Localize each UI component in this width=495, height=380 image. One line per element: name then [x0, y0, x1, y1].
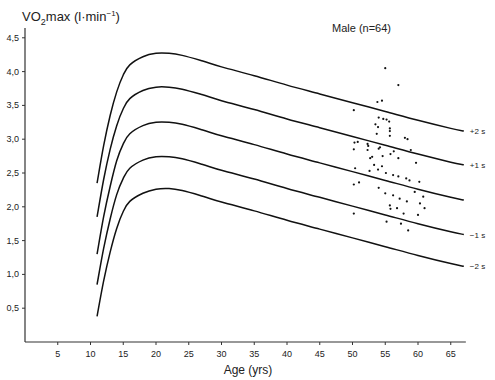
data-point [379, 146, 381, 148]
x-tick-label: 55 [380, 349, 390, 359]
y-tick-label: 3,0 [6, 134, 19, 144]
data-point [404, 137, 406, 139]
data-point [371, 156, 373, 158]
data-point [353, 141, 355, 143]
data-point [353, 148, 355, 150]
axes: 0,51,01,52,02,53,03,54,04,55101520253035… [6, 28, 465, 359]
data-point [397, 175, 399, 177]
curve-2-s [97, 188, 464, 316]
x-tick-label: 30 [216, 349, 226, 359]
percentile-curves: +2 s+1 s−1 s−2 s [97, 53, 485, 316]
chart-svg: 0,51,01,52,02,53,03,54,04,55101520253035… [0, 0, 495, 380]
data-point [378, 187, 380, 189]
x-tick-label: 40 [282, 349, 292, 359]
data-point [376, 101, 378, 103]
data-point [389, 208, 391, 210]
y-tick-label: 3,5 [6, 100, 19, 110]
data-point [388, 121, 390, 123]
data-point [392, 194, 394, 196]
data-point [382, 155, 384, 157]
curve-label: −2 s [470, 262, 485, 271]
curve-label: +1 s [470, 161, 485, 170]
x-tick-label: 60 [413, 349, 423, 359]
data-point [422, 196, 424, 198]
x-tick-label: 50 [347, 349, 357, 359]
data-point [389, 127, 391, 129]
data-point [353, 109, 355, 111]
data-point [358, 181, 360, 183]
data-point [407, 229, 409, 231]
data-point [393, 150, 395, 152]
data-point [417, 214, 419, 216]
data-point [419, 202, 421, 204]
data-point [418, 181, 420, 183]
x-tick-label: 5 [55, 349, 60, 359]
data-point [382, 118, 384, 120]
data-point [377, 126, 379, 128]
data-point [376, 133, 378, 135]
data-point [384, 192, 386, 194]
scatter-points [353, 67, 426, 231]
data-point [414, 191, 416, 193]
y-axis-label: VO2max (l·min−1) [22, 9, 120, 27]
x-tick-label: 35 [249, 349, 259, 359]
data-point [405, 177, 407, 179]
data-point [389, 153, 391, 155]
data-point [423, 207, 425, 209]
data-point [353, 183, 355, 185]
data-point [369, 157, 371, 159]
x-tick-label: 10 [85, 349, 95, 359]
y-tick-label: 0,5 [6, 303, 19, 313]
data-point [389, 135, 391, 137]
curve-1-s [97, 156, 464, 284]
data-point [397, 157, 399, 159]
data-point [392, 174, 394, 176]
curve-mean [97, 122, 464, 254]
vo2max-age-chart: 0,51,01,52,02,53,03,54,04,55101520253035… [0, 0, 495, 380]
x-tick-label: 20 [151, 349, 161, 359]
y-tick-label: 2,0 [6, 202, 19, 212]
x-tick-label: 15 [118, 349, 128, 359]
data-point [381, 100, 383, 102]
data-point [402, 212, 404, 214]
y-tick-label: 4,5 [6, 33, 19, 43]
data-point [384, 67, 386, 69]
x-tick-label: 65 [446, 349, 456, 359]
data-point [357, 141, 359, 143]
data-point [368, 170, 370, 172]
male-annotation: Male (n=64) [332, 22, 391, 34]
curve-label: −1 s [470, 231, 485, 240]
data-point [385, 118, 387, 120]
data-point [378, 116, 380, 118]
data-point [397, 84, 399, 86]
data-point [381, 165, 383, 167]
data-point [366, 143, 368, 145]
data-point [406, 200, 408, 202]
curve-label: +2 s [470, 127, 485, 136]
y-tick-label: 4,0 [6, 67, 19, 77]
curve-2-s [97, 53, 464, 183]
data-point [385, 172, 387, 174]
data-point [389, 204, 391, 206]
data-point [410, 149, 412, 151]
data-point [406, 138, 408, 140]
data-point [408, 179, 410, 181]
data-point [366, 149, 368, 151]
y-tick-label: 1,0 [6, 269, 19, 279]
x-tick-label: 45 [315, 349, 325, 359]
data-point [415, 162, 417, 164]
data-point [377, 169, 379, 171]
data-point [373, 164, 375, 166]
data-point [400, 223, 402, 225]
y-tick-label: 2,5 [6, 168, 19, 178]
data-point [367, 145, 369, 147]
data-point [374, 123, 376, 125]
x-axis-label: Age (yrs) [224, 363, 273, 377]
data-point [396, 207, 398, 209]
x-tick-label: 25 [184, 349, 194, 359]
data-point [353, 212, 355, 214]
data-point [389, 130, 391, 132]
data-point [354, 167, 356, 169]
data-point [385, 221, 387, 223]
data-point [399, 198, 401, 200]
